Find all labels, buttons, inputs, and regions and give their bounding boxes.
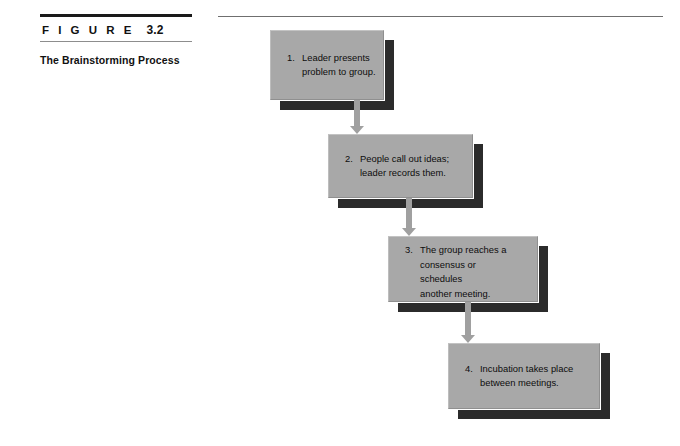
- arrow-step3-to-step4-shaft: [465, 302, 471, 335]
- figure-rule-bottom-divider: [40, 41, 192, 42]
- flow-step-3-line-3: schedules: [405, 272, 507, 287]
- flow-step-box-4-shadow-bottom: [458, 410, 610, 419]
- flow-step-text-3: 3.The group reaches aconsensus orschedul…: [405, 243, 507, 301]
- arrow-step2-to-step3-head: [402, 228, 416, 236]
- flow-step-4-line-2: between meetings.: [465, 376, 573, 391]
- figure-number: 3.2: [146, 23, 163, 37]
- arrow-step1-to-step2: [348, 100, 366, 134]
- flow-step-box-1-shadow-right: [385, 40, 394, 110]
- flow-step-4-line-text-2: between meetings.: [480, 377, 559, 388]
- flow-step-3-line-text-2: consensus or: [420, 259, 476, 270]
- figure-caption-block: F I G U R E 3.2 The Brainstorming Proces…: [40, 14, 192, 67]
- figure-label-row: F I G U R E 3.2: [40, 17, 192, 41]
- flow-step-4-line-1: 4.Incubation takes place: [465, 362, 573, 377]
- flow-step-number-1: 1.: [287, 51, 302, 66]
- flow-step-2-line-2: leader records them.: [345, 166, 449, 181]
- flow-step-text-1: 1.Leader presentsproblem to group.: [287, 51, 375, 80]
- flow-step-1-line-1: 1.Leader presents: [287, 51, 375, 66]
- flow-step-box-4: 4.Incubation takes placebetween meetings…: [448, 343, 600, 409]
- flow-step-3-line-text-1: The group reaches a: [420, 244, 507, 255]
- flow-step-box-3: 3.The group reaches aconsensus orschedul…: [388, 236, 538, 302]
- flow-step-number-3: 3.: [405, 243, 420, 258]
- flow-step-1-line-text-1: Leader presents: [302, 52, 370, 63]
- arrow-step1-to-step2-head: [350, 126, 364, 134]
- flow-step-1-line-2: problem to group.: [287, 65, 375, 80]
- flow-step-3-line-2: consensus or: [405, 258, 507, 273]
- flow-step-3-line-text-3: schedules: [420, 273, 462, 284]
- flow-step-4-line-text-1: Incubation takes place: [480, 363, 573, 374]
- flow-step-2-line-text-2: leader records them.: [360, 167, 446, 178]
- flow-step-2-line-text-1: People call out ideas;: [360, 153, 449, 164]
- figure-title: The Brainstorming Process: [40, 53, 192, 67]
- flow-step-box-1: 1.Leader presentsproblem to group.: [270, 30, 384, 100]
- page-top-divider: [218, 16, 663, 17]
- flow-step-box-2: 2.People call out ideas;leader records t…: [328, 134, 473, 198]
- arrow-step3-to-step4: [459, 302, 477, 343]
- figure-label-word: F I G U R E: [42, 24, 134, 36]
- flow-step-box-1-shadow-bottom: [280, 101, 394, 110]
- arrow-step1-to-step2-shaft: [354, 100, 360, 126]
- arrow-step3-to-step4-head: [461, 335, 475, 343]
- flow-step-text-4: 4.Incubation takes placebetween meetings…: [465, 362, 573, 391]
- flow-step-text-2: 2.People call out ideas;leader records t…: [345, 152, 449, 181]
- flow-step-3-line-1: 3.The group reaches a: [405, 243, 507, 258]
- flow-step-1-line-text-2: problem to group.: [302, 66, 375, 77]
- arrow-step2-to-step3: [400, 198, 418, 236]
- flow-step-3-line-text-4: another meeting.: [420, 288, 490, 299]
- flow-step-3-line-4: another meeting.: [405, 287, 507, 302]
- arrow-step2-to-step3-shaft: [406, 198, 412, 228]
- flow-step-2-line-1: 2.People call out ideas;: [345, 152, 449, 167]
- flow-step-number-4: 4.: [465, 362, 480, 377]
- flow-step-number-2: 2.: [345, 152, 360, 167]
